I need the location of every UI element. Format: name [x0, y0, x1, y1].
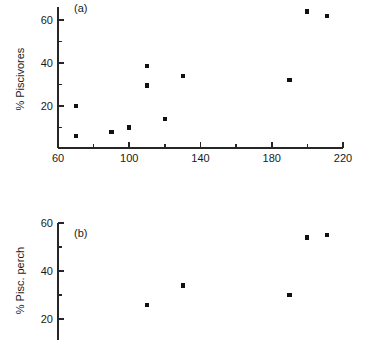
y-axis-title-a: % Piscivores — [14, 47, 26, 110]
x-tick-label-a: 180 — [263, 152, 281, 164]
data-point-b — [145, 303, 149, 307]
data-point-a — [109, 130, 113, 134]
y-tick-label-b: 20 — [41, 313, 53, 325]
data-point-a — [127, 125, 131, 129]
data-point-a — [305, 9, 309, 13]
data-point-b — [181, 283, 185, 287]
x-tick-label-a: 60 — [52, 152, 64, 164]
x-tick-label-a: 100 — [120, 152, 138, 164]
data-point-a — [74, 104, 78, 108]
data-point-a — [181, 74, 185, 78]
data-point-b — [325, 233, 329, 237]
data-point-b — [305, 235, 309, 239]
x-tick-label-a: 140 — [191, 152, 209, 164]
data-point-a — [163, 117, 167, 121]
data-point-a — [145, 83, 149, 87]
y-tick-label-b: 60 — [41, 217, 53, 229]
y-tick-label-a: 40 — [41, 57, 53, 69]
data-point-a — [74, 134, 78, 138]
data-point-a — [145, 64, 149, 68]
y-axis-title-b: % Pisc. perch — [14, 247, 26, 314]
scatter-plot-b: 204060% Pisc. perch(b) — [0, 190, 368, 340]
panel-b-pisc-perch: 204060% Pisc. perch(b) — [0, 190, 368, 340]
y-tick-label-a: 60 — [41, 14, 53, 26]
data-point-a — [287, 78, 291, 82]
x-tick-label-a: 220 — [334, 152, 352, 164]
y-tick-label-a: 20 — [41, 100, 53, 112]
panel-label-a: (a) — [74, 2, 87, 14]
panel-a-piscivores: 60100140180220204060% Piscivores(a) — [0, 0, 368, 180]
data-point-b — [287, 293, 291, 297]
data-point-a — [325, 14, 329, 18]
panel-label-b: (b) — [74, 227, 87, 239]
scatter-plot-a: 60100140180220204060% Piscivores(a) — [0, 0, 368, 180]
figure-container: 60100140180220204060% Piscivores(a) 2040… — [0, 0, 368, 340]
y-tick-label-b: 40 — [41, 265, 53, 277]
